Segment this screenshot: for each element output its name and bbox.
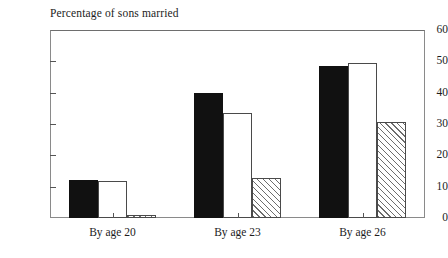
x-axis-label: By age 20: [53, 226, 173, 238]
x-axis-tick-mark: [238, 213, 239, 218]
x-axis-label: By age 26: [303, 226, 423, 238]
x-axis-labels: By age 20By age 23By age 26: [0, 0, 448, 258]
x-axis-tick-mark: [363, 213, 364, 218]
x-axis-tick-mark: [113, 213, 114, 218]
bar-chart: Percentage of sons married 0102030405060…: [0, 0, 448, 258]
x-axis-label: By age 23: [178, 226, 298, 238]
